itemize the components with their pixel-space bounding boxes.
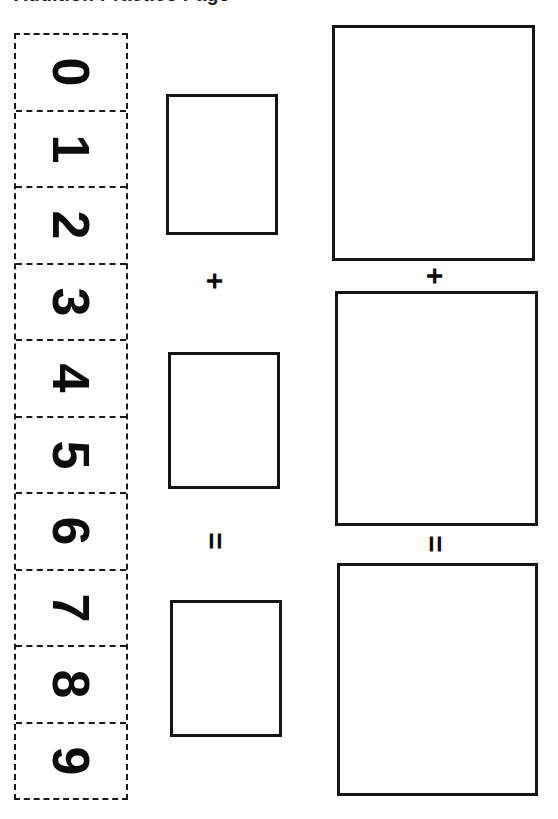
digit-glyph: 3: [45, 287, 97, 316]
digit-glyph: 6: [45, 517, 97, 546]
middle-addend-box-2[interactable]: [168, 352, 280, 489]
digit-cell[interactable]: 5: [16, 418, 126, 495]
digit-glyph: 0: [45, 58, 97, 87]
right-equals-operator: =: [416, 524, 450, 564]
digit-glyph: 1: [45, 134, 97, 163]
digit-cell[interactable]: 2: [16, 188, 126, 265]
middle-addend-box-1[interactable]: [166, 94, 278, 235]
digit-cell[interactable]: 8: [16, 647, 126, 724]
middle-equals-operator: =: [196, 521, 230, 561]
digit-glyph: 8: [45, 670, 97, 699]
digit-cell[interactable]: 1: [16, 112, 126, 189]
digit-cell[interactable]: 6: [16, 494, 126, 571]
digit-cell[interactable]: 4: [16, 341, 126, 418]
page-title: Addition Practice Page: [14, 0, 230, 6]
middle-plus-operator: +: [196, 261, 230, 301]
digit-glyph: 4: [45, 364, 97, 393]
digit-glyph: 2: [45, 211, 97, 240]
page-title-clipped-region: Addition Practice Page: [0, 0, 558, 6]
digit-glyph: 9: [45, 746, 97, 775]
right-addend-box-2[interactable]: [335, 291, 538, 526]
worksheet-page: Addition Practice Page 0 1 2 3 4 5 6 7 8: [0, 0, 558, 819]
digit-glyph: 7: [45, 593, 97, 622]
digit-cell[interactable]: 7: [16, 571, 126, 648]
digit-cell[interactable]: 3: [16, 265, 126, 342]
right-sum-box[interactable]: [337, 563, 538, 796]
middle-sum-box[interactable]: [170, 600, 282, 737]
right-plus-operator: +: [416, 256, 450, 296]
digit-cell[interactable]: 9: [16, 724, 126, 799]
digit-glyph: 5: [45, 440, 97, 469]
digit-strip: 0 1 2 3 4 5 6 7 8 9: [14, 33, 128, 800]
digit-cell[interactable]: 0: [16, 35, 126, 112]
right-addend-box-1[interactable]: [332, 25, 535, 261]
